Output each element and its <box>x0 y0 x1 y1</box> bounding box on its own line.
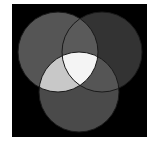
venn-diagram <box>0 0 163 141</box>
